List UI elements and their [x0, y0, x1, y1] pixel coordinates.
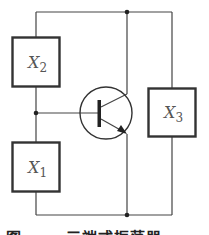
junction-dot-top	[125, 10, 130, 15]
collector-lead	[101, 94, 127, 107]
transistor-base-bar	[98, 100, 102, 127]
junction-dot-bottom	[125, 213, 130, 218]
junction-dot-left	[34, 111, 39, 116]
circuit-diagram: X2 X1 X3	[0, 0, 209, 235]
figure-caption: 图 —— 三端式振荡器	[0, 226, 209, 235]
